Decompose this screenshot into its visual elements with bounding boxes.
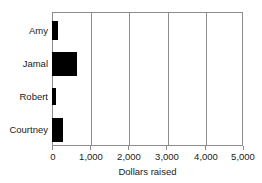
category-axis: Amy Jamal Robert Courtney: [0, 12, 48, 146]
xtick-mark-0: [52, 146, 53, 150]
xtick-label-5000: 5,000: [231, 151, 255, 162]
xtick-label-2000: 2,000: [117, 151, 141, 162]
bar-courtney: [52, 118, 63, 142]
xtick-label-1000: 1,000: [79, 151, 103, 162]
xtick-mark-5000: [243, 146, 244, 150]
category-label-robert: Robert: [0, 92, 48, 102]
bar-amy: [52, 21, 58, 40]
xtick-label-0: 0: [50, 151, 55, 162]
xtick-label-4000: 4,000: [194, 151, 218, 162]
x-axis-title: Dollars raised: [52, 166, 243, 177]
bar-chart: Amy Jamal Robert Courtney 0 1,000 2,000 …: [0, 0, 262, 183]
xtick-label-3000: 3,000: [155, 151, 179, 162]
xtick-mark-2000: [128, 146, 129, 150]
bar-jamal: [52, 52, 77, 76]
bar-robert: [52, 88, 56, 105]
category-label-amy: Amy: [0, 26, 48, 36]
bars-layer: [52, 12, 243, 146]
category-label-courtney: Courtney: [0, 125, 48, 135]
category-label-jamal: Jamal: [0, 59, 48, 69]
xtick-mark-4000: [205, 146, 206, 150]
xtick-mark-1000: [90, 146, 91, 150]
xtick-mark-3000: [166, 146, 167, 150]
